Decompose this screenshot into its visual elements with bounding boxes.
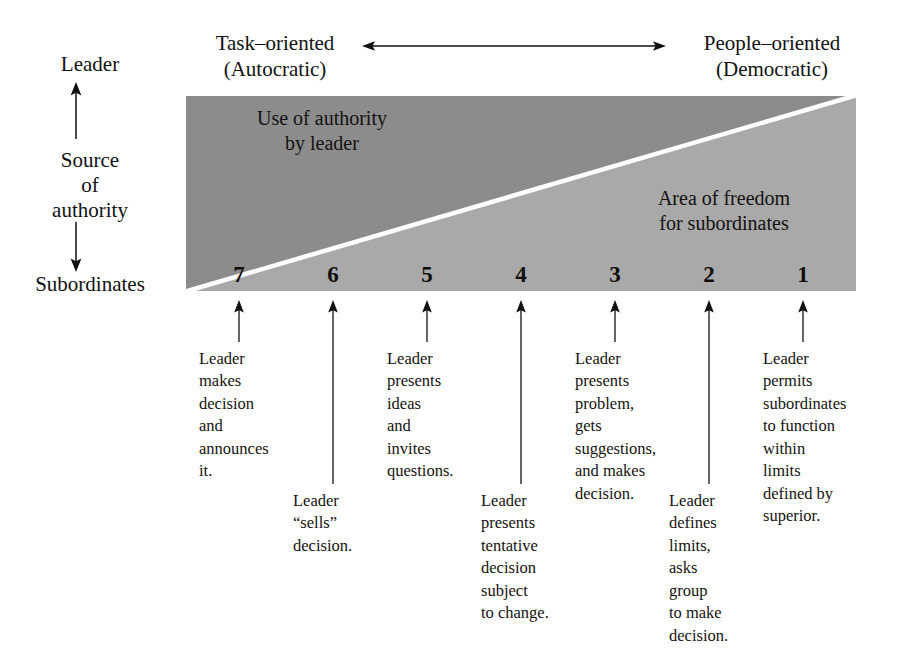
axis-label-source-line1: Source	[0, 148, 180, 173]
callout-7-line-5: announces	[199, 438, 319, 460]
callout-caption-3: Leaderpresentsproblem,getssuggestions,an…	[575, 348, 695, 505]
scale-number-7: 7	[219, 262, 259, 288]
callout-5-line-4: and	[387, 415, 507, 437]
region-label-area-of-freedom: Area of freedom for subordinates	[600, 186, 848, 236]
callout-5-line-1: Leader	[387, 348, 507, 370]
callout-caption-5: Leaderpresentsideasandinvitesquestions.	[387, 348, 507, 483]
callout-7-line-1: Leader	[199, 348, 319, 370]
callout-1-line-8: superior.	[763, 505, 883, 527]
callout-3-line-4: gets	[575, 415, 695, 437]
region-label-freedom-line2: for subordinates	[600, 211, 848, 236]
callout-7-line-3: decision	[199, 393, 319, 415]
header-people-oriented: People–oriented (Democratic)	[664, 31, 880, 82]
header-people-oriented-line1: People–oriented	[664, 31, 880, 57]
callout-1-line-3: subordinates	[763, 393, 883, 415]
callout-caption-4: Leaderpresentstentativedecisionsubjectto…	[481, 490, 601, 625]
axis-label-source-line2: of	[0, 173, 180, 198]
scale-number-4: 4	[501, 262, 541, 288]
callout-2-line-3: limits,	[669, 535, 789, 557]
scale-number-1: 1	[783, 262, 823, 288]
callout-5-line-6: questions.	[387, 460, 507, 482]
region-label-authority-line1: Use of authority	[207, 106, 437, 131]
callout-4-line-3: tentative	[481, 535, 601, 557]
callout-6-line-2: “sells”	[293, 512, 413, 534]
callout-3-line-5: suggestions,	[575, 438, 695, 460]
scale-number-2: 2	[689, 262, 729, 288]
scale-number-3: 3	[595, 262, 635, 288]
callout-4-line-6: to change.	[481, 602, 601, 624]
callout-1-line-6: limits	[763, 460, 883, 482]
callout-3-line-2: presents	[575, 370, 695, 392]
horizontal-double-arrow-icon	[362, 36, 666, 56]
callout-2-line-5: group	[669, 580, 789, 602]
callout-5-line-2: presents	[387, 370, 507, 392]
header-people-oriented-line2: (Democratic)	[664, 57, 880, 83]
callout-5-line-5: invites	[387, 438, 507, 460]
header-task-oriented-line2: (Autocratic)	[186, 57, 364, 83]
pointer-arrow-3	[607, 300, 623, 346]
callout-caption-1: Leaderpermitssubordinatesto functionwith…	[763, 348, 883, 528]
callout-1-line-7: defined by	[763, 483, 883, 505]
callout-1-line-2: permits	[763, 370, 883, 392]
pointer-arrow-4	[513, 300, 529, 488]
callout-caption-6: Leader“sells”decision.	[293, 490, 413, 557]
callout-3-line-1: Leader	[575, 348, 695, 370]
callout-3-line-6: and makes	[575, 460, 695, 482]
callout-7-line-6: it.	[199, 460, 319, 482]
axis-label-source-of-authority: Source of authority	[0, 148, 180, 224]
leadership-continuum-diagram: Task–oriented (Autocratic) People–orient…	[0, 0, 909, 655]
axis-label-subordinates: Subordinates	[0, 272, 180, 297]
region-label-authority-line2: by leader	[207, 131, 437, 156]
callout-1-line-4: to function	[763, 415, 883, 437]
callout-7-line-2: makes	[199, 370, 319, 392]
callout-6-line-3: decision.	[293, 535, 413, 557]
scale-number-6: 6	[313, 262, 353, 288]
callout-4-line-2: presents	[481, 512, 601, 534]
callout-2-line-6: to make	[669, 602, 789, 624]
pointer-arrow-7	[231, 300, 247, 346]
callout-caption-7: Leadermakesdecisionandannouncesit.	[199, 348, 319, 483]
callout-2-line-4: asks	[669, 557, 789, 579]
callout-1-line-5: within	[763, 438, 883, 460]
pointer-arrow-2	[701, 300, 717, 488]
pointer-arrow-5	[419, 300, 435, 346]
header-task-oriented: Task–oriented (Autocratic)	[186, 31, 364, 82]
callout-6-line-1: Leader	[293, 490, 413, 512]
pointer-arrow-6	[325, 300, 341, 488]
pointer-arrow-1	[795, 300, 811, 346]
callout-4-line-4: decision	[481, 557, 601, 579]
arrow-up-icon	[66, 82, 86, 140]
scale-number-5: 5	[407, 262, 447, 288]
region-label-freedom-line1: Area of freedom	[600, 186, 848, 211]
region-label-use-of-authority: Use of authority by leader	[207, 106, 437, 156]
callout-3-line-3: problem,	[575, 393, 695, 415]
arrow-down-icon	[66, 222, 86, 272]
callout-1-line-1: Leader	[763, 348, 883, 370]
axis-label-source-line3: authority	[0, 198, 180, 223]
callout-7-line-4: and	[199, 415, 319, 437]
callout-2-line-7: decision.	[669, 625, 789, 647]
header-task-oriented-line1: Task–oriented	[186, 31, 364, 57]
callout-5-line-3: ideas	[387, 393, 507, 415]
callout-4-line-5: subject	[481, 580, 601, 602]
axis-label-leader: Leader	[0, 52, 180, 77]
